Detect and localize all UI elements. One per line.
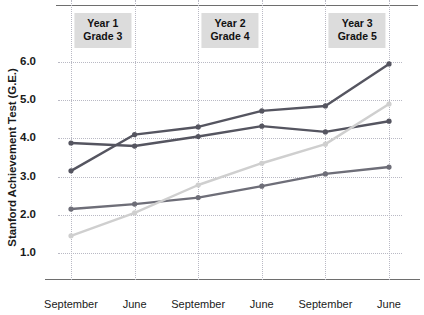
data-point-marker xyxy=(196,124,201,129)
plot-area: 1.02.03.04.05.06.0 SeptemberJuneSeptembe… xyxy=(58,10,402,280)
band-label-year-2: Year 2Grade 4 xyxy=(201,13,258,48)
data-point-marker xyxy=(259,108,264,113)
band-year-text: Year 2 xyxy=(210,17,249,30)
y-tick-label: 5.0 xyxy=(6,93,36,105)
data-point-marker xyxy=(132,202,137,207)
x-tick-label: June xyxy=(123,298,147,310)
data-point-marker xyxy=(386,119,391,124)
data-point-marker xyxy=(323,142,328,147)
data-point-marker xyxy=(386,101,391,106)
y-tick-label: 2.0 xyxy=(6,208,36,220)
series-line xyxy=(71,104,389,236)
x-tick-label: September xyxy=(298,298,352,310)
data-point-marker xyxy=(386,61,391,66)
series-series-c-medium-gray xyxy=(68,164,391,211)
top-axis-rule xyxy=(56,5,418,6)
x-tick-label: June xyxy=(250,298,274,310)
data-point-marker xyxy=(196,195,201,200)
data-point-marker xyxy=(196,134,201,139)
data-point-marker xyxy=(323,171,328,176)
data-point-marker xyxy=(196,182,201,187)
band-grade-text: Grade 3 xyxy=(83,30,122,43)
y-tick-label: 1.0 xyxy=(6,246,36,258)
data-point-marker xyxy=(323,103,328,108)
band-label-year-3: Year 3Grade 5 xyxy=(329,13,386,48)
data-point-marker xyxy=(259,161,264,166)
band-label-year-1: Year 1Grade 3 xyxy=(74,13,131,48)
series-series-a-dark-steep xyxy=(68,61,391,173)
data-point-marker xyxy=(132,210,137,215)
data-point-marker xyxy=(259,124,264,129)
y-tick-label: 6.0 xyxy=(6,55,36,67)
data-point-marker xyxy=(68,140,73,145)
x-tick-label: September xyxy=(171,298,225,310)
data-point-marker xyxy=(68,168,73,173)
series-series-d-light-gray xyxy=(68,101,391,238)
band-year-text: Year 3 xyxy=(338,17,377,30)
band-year-text: Year 1 xyxy=(83,17,122,30)
data-point-marker xyxy=(68,233,73,238)
data-point-marker xyxy=(386,164,391,169)
chart-container: Stanford Achievement Test (G.E.) 1.02.03… xyxy=(0,0,424,315)
data-point-marker xyxy=(323,129,328,134)
y-tick-label: 3.0 xyxy=(6,170,36,182)
series-lines-layer xyxy=(58,10,402,280)
data-point-marker xyxy=(132,143,137,148)
data-point-marker xyxy=(68,206,73,211)
band-grade-text: Grade 5 xyxy=(338,30,377,43)
y-axis-title: Stanford Achievement Test (G.E.) xyxy=(0,0,24,315)
data-point-marker xyxy=(259,184,264,189)
data-point-marker xyxy=(132,132,137,137)
series-line xyxy=(71,64,389,171)
x-tick-label: September xyxy=(44,298,98,310)
band-grade-text: Grade 4 xyxy=(210,30,249,43)
x-tick-label: June xyxy=(377,298,401,310)
y-tick-label: 4.0 xyxy=(6,131,36,143)
